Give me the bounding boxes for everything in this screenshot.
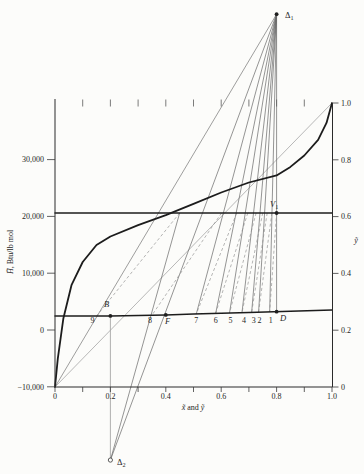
B-label: B bbox=[104, 299, 109, 309]
x-tick-label: 0.8 bbox=[272, 392, 282, 401]
delta1-operating-ray bbox=[242, 14, 277, 312]
delta1-marker bbox=[275, 12, 279, 16]
stage-label: 8 bbox=[148, 316, 152, 325]
delta2-operating-ray bbox=[110, 213, 179, 460]
right-tick-label: 0 bbox=[341, 383, 345, 392]
V1-marker bbox=[275, 211, 279, 215]
tie-lines bbox=[97, 213, 277, 316]
right-tick-label: 0.6 bbox=[341, 212, 351, 221]
delta1-label: Δ1 bbox=[285, 10, 294, 21]
stage-label: 2 bbox=[258, 316, 262, 325]
construction-lines bbox=[55, 14, 332, 460]
F-label: F bbox=[164, 316, 171, 326]
left-tick-label: 20,000 bbox=[22, 212, 44, 221]
stage-label: 7 bbox=[194, 316, 198, 325]
stage-label: 3 bbox=[252, 316, 256, 325]
right-axis-title: ỹ bbox=[353, 236, 358, 245]
labels: 00.20.40.60.81.0−10,000010,00020,00030,0… bbox=[6, 10, 359, 468]
D-marker bbox=[275, 310, 279, 314]
textbook-figure-page: 00.20.40.60.81.0−10,000010,00020,00030,0… bbox=[0, 0, 364, 474]
right-tick-label: 1.0 bbox=[341, 99, 351, 108]
x-tick-label: 0.4 bbox=[161, 392, 171, 401]
right-tick-label: 0.2 bbox=[341, 326, 351, 335]
left-tick-label: 0 bbox=[40, 326, 44, 335]
x-tick-label: 1.0 bbox=[327, 392, 337, 401]
x-tick-label: 0 bbox=[53, 392, 57, 401]
left-tick-label: −10,000 bbox=[17, 383, 44, 392]
delta2-label: Δ2 bbox=[117, 457, 126, 468]
delta2-marker bbox=[108, 458, 112, 462]
stage-label: 1 bbox=[269, 316, 273, 325]
left-axis-title: H̃, Btu/lb mol bbox=[6, 229, 15, 275]
left-tick-label: 10,000 bbox=[22, 269, 44, 278]
x-tick-label: 0.6 bbox=[216, 392, 226, 401]
feed-line-delta2-delta1 bbox=[110, 14, 276, 460]
delta1-corner-ray bbox=[55, 14, 277, 387]
V1-label: V1 bbox=[270, 199, 278, 210]
right-tick-label: 0.8 bbox=[341, 156, 351, 165]
enthalpy-concentration-chart: 00.20.40.60.81.0−10,000010,00020,00030,0… bbox=[0, 0, 364, 474]
B-marker bbox=[109, 314, 113, 318]
bottom-axis-title: x̃ and ỹ bbox=[181, 403, 205, 412]
stage-label: 6 bbox=[214, 316, 218, 325]
D-label: D bbox=[279, 313, 287, 323]
tie-line-stage-7 bbox=[196, 213, 236, 314]
left-tick-label: 30,000 bbox=[22, 155, 44, 164]
stage-label: 5 bbox=[229, 316, 233, 325]
x-tick-label: 0.2 bbox=[105, 392, 115, 401]
stage-label: 4 bbox=[242, 316, 246, 325]
stage-label: 9 bbox=[91, 316, 95, 325]
tie-line-stage-8 bbox=[152, 213, 222, 315]
right-tick-label: 0.4 bbox=[341, 269, 351, 278]
